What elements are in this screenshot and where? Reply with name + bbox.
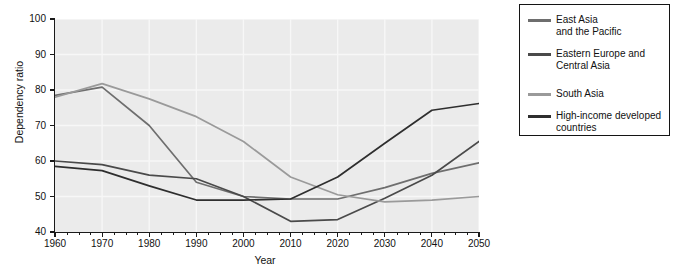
x-tick-minor — [420, 232, 421, 235]
x-tick — [102, 232, 103, 237]
x-tick — [478, 232, 479, 237]
y-tick — [50, 196, 55, 197]
legend-color-swatch-2 — [528, 93, 551, 96]
x-tick-minor — [267, 232, 268, 235]
x-tick-label: 1960 — [35, 239, 75, 249]
x-tick-minor — [161, 232, 162, 235]
legend-color-swatch-1 — [528, 53, 551, 56]
legend: East Asia and the PacificEastern Europe … — [519, 4, 670, 136]
y-axis-title: Dependency ratio — [13, 47, 25, 157]
x-tick-label: 1990 — [176, 239, 216, 249]
x-tick-minor — [67, 232, 68, 235]
y-tick — [50, 18, 55, 19]
x-tick — [290, 232, 291, 237]
x-tick-label: 2030 — [365, 239, 405, 249]
x-tick — [243, 232, 244, 237]
y-tick — [50, 89, 55, 90]
legend-label: South Asia — [556, 88, 604, 100]
legend-item[interactable]: High-income developed countries — [528, 110, 661, 133]
legend-label: East Asia and the Pacific — [556, 14, 622, 37]
x-tick-minor — [255, 232, 256, 235]
y-tick — [50, 54, 55, 55]
legend-item[interactable]: East Asia and the Pacific — [528, 14, 622, 37]
x-tick-minor — [126, 232, 127, 235]
x-tick-minor — [467, 232, 468, 235]
series-line-0 — [55, 87, 479, 199]
x-tick-minor — [455, 232, 456, 235]
x-tick — [384, 232, 385, 237]
series-lines — [55, 84, 479, 222]
x-tick-minor — [79, 232, 80, 235]
legend-color-swatch-3 — [528, 115, 551, 118]
x-tick-minor — [137, 232, 138, 235]
x-tick-minor — [373, 232, 374, 235]
legend-label: High-income developed countries — [556, 110, 661, 133]
x-tick-minor — [349, 232, 350, 235]
x-tick-label: 1980 — [129, 239, 169, 249]
x-tick — [149, 232, 150, 237]
legend-label: Eastern Europe and Central Asia — [556, 48, 645, 71]
x-axis-title: Year — [215, 254, 315, 266]
y-tick-label: 40 — [16, 227, 46, 237]
legend-item[interactable]: South Asia — [528, 88, 604, 100]
y-tick-label: 60 — [16, 156, 46, 166]
x-tick-minor — [90, 232, 91, 235]
x-tick-label: 2010 — [271, 239, 311, 249]
x-tick-minor — [220, 232, 221, 235]
x-tick-label: 2040 — [412, 239, 452, 249]
x-tick-minor — [444, 232, 445, 235]
x-tick-label: 1970 — [82, 239, 122, 249]
x-tick-minor — [408, 232, 409, 235]
x-tick-minor — [397, 232, 398, 235]
x-tick-label: 2020 — [318, 239, 358, 249]
x-tick-minor — [185, 232, 186, 235]
x-tick — [54, 232, 55, 237]
x-tick — [431, 232, 432, 237]
x-tick-minor — [314, 232, 315, 235]
y-tick-label: 50 — [16, 192, 46, 202]
y-tick-label: 100 — [16, 14, 46, 24]
x-tick-minor — [232, 232, 233, 235]
x-tick — [337, 232, 338, 237]
x-tick-minor — [326, 232, 327, 235]
y-tick — [50, 125, 55, 126]
x-tick-minor — [114, 232, 115, 235]
x-tick — [196, 232, 197, 237]
legend-color-swatch-0 — [528, 19, 551, 22]
plot-svg — [55, 19, 479, 232]
x-tick-minor — [361, 232, 362, 235]
series-line-3 — [55, 103, 479, 200]
legend-item[interactable]: Eastern Europe and Central Asia — [528, 48, 645, 71]
x-tick-minor — [173, 232, 174, 235]
series-line-1 — [55, 141, 479, 221]
plot-area — [55, 19, 479, 232]
y-tick — [50, 160, 55, 161]
x-tick-minor — [208, 232, 209, 235]
x-tick-minor — [302, 232, 303, 235]
x-tick-minor — [279, 232, 280, 235]
x-tick-label: 2000 — [223, 239, 263, 249]
chart-figure: 405060708090100 196019701980199020002010… — [0, 0, 675, 269]
x-tick-label: 2050 — [459, 239, 499, 249]
